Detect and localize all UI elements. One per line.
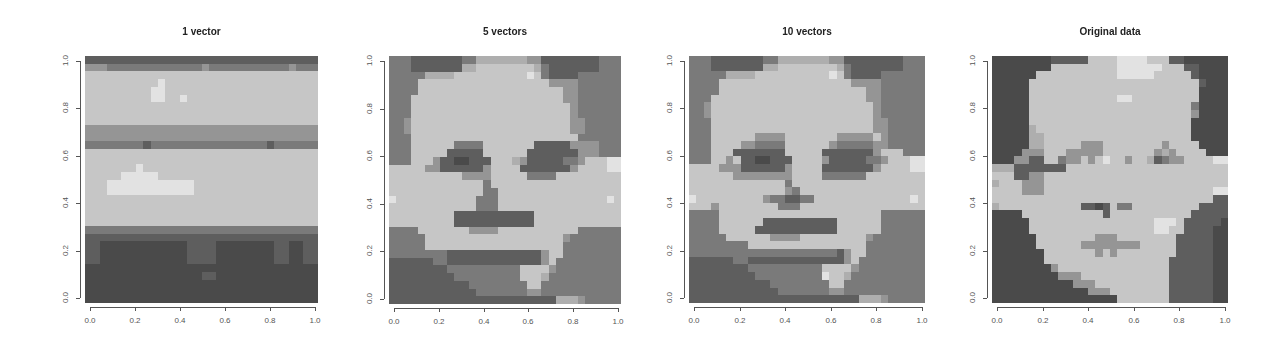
panel-original-data: Original data xyxy=(960,0,1260,346)
panel-10-vectors: 10 vectors xyxy=(657,0,957,346)
panel-1-vector: 1 vector xyxy=(52,0,352,346)
panel-title: 10 vectors xyxy=(657,26,957,37)
panel-5-vectors: 5 vectors xyxy=(355,0,655,346)
panel-title: 1 vector xyxy=(52,26,352,37)
panel-title: 5 vectors xyxy=(355,26,655,37)
panel-title: Original data xyxy=(960,26,1260,37)
